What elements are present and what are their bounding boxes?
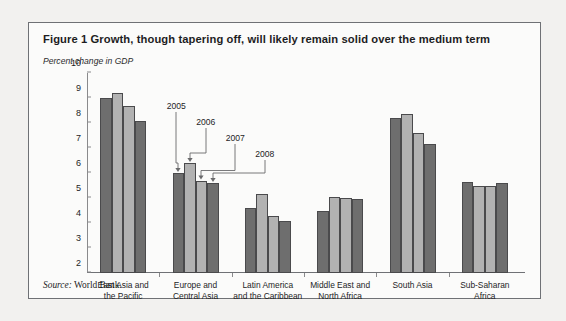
year-callout-label: 2008 xyxy=(255,149,274,159)
source-note: Source: World Bank. xyxy=(43,280,122,290)
x-axis-group-separator xyxy=(159,273,160,277)
bar xyxy=(340,198,352,273)
figure-box: Figure 1 Growth, though tapering off, wi… xyxy=(28,22,541,299)
bar xyxy=(473,186,485,274)
figure-page: Figure 1 Growth, though tapering off, wi… xyxy=(0,0,566,321)
bar xyxy=(279,221,291,274)
axis-unit-label: Percent change in GDP xyxy=(43,56,133,66)
chart-plot-area: 2345678910 East Asia andthe PacificEurop… xyxy=(87,73,521,273)
x-axis-group-separator xyxy=(449,273,450,277)
bar xyxy=(123,106,135,274)
x-axis-category-line: Europe and xyxy=(173,280,218,291)
bar-group: Sub-SaharanAfrica xyxy=(462,73,508,273)
y-axis-tick-mark xyxy=(87,197,91,198)
bar-group: South Asia xyxy=(390,73,436,273)
bar xyxy=(352,199,364,273)
year-callout-label: 2007 xyxy=(226,133,245,143)
source-label: Source: xyxy=(43,280,72,290)
y-axis-tick-mark xyxy=(87,222,91,223)
y-axis-tick-mark xyxy=(87,272,91,273)
source-value: World Bank. xyxy=(74,280,122,290)
bar-group: East Asia andthe Pacific xyxy=(100,73,146,273)
year-callout-arrow-icon xyxy=(171,112,183,172)
bar xyxy=(390,118,402,273)
y-axis-tick-mark xyxy=(87,72,91,73)
year-callout-arrow-icon xyxy=(208,160,270,182)
bar xyxy=(485,186,497,274)
bar xyxy=(424,144,436,273)
page-title: Figure 1 Growth, though tapering off, wi… xyxy=(43,33,490,45)
y-axis-tick-label: 5 xyxy=(76,183,81,193)
y-axis-tick-mark xyxy=(87,147,91,148)
y-axis-tick-label: 10 xyxy=(71,58,81,68)
bar xyxy=(256,194,268,273)
y-axis-tick-label: 9 xyxy=(76,83,81,93)
x-axis-category-label: Middle East andNorth Africa xyxy=(310,280,370,302)
y-axis-tick-mark xyxy=(87,172,91,173)
y-axis-tick-label: 4 xyxy=(76,208,81,218)
y-axis-tick-label: 6 xyxy=(76,158,81,168)
y-axis-tick-label: 8 xyxy=(76,108,81,118)
x-axis-category-line: Sub-Saharan xyxy=(460,280,509,291)
bar xyxy=(207,183,219,273)
y-axis-tick-label: 2 xyxy=(76,258,81,268)
y-axis-tick-label: 7 xyxy=(76,133,81,143)
x-axis-category-line: Central Asia xyxy=(173,291,218,302)
bar xyxy=(462,182,474,273)
x-axis-category-line: North Africa xyxy=(310,291,370,302)
bar xyxy=(401,114,413,273)
bar xyxy=(329,197,341,273)
x-axis-category-line: and the Caribbean xyxy=(233,291,302,302)
x-axis-category-label: Sub-SaharanAfrica xyxy=(460,280,509,302)
bar xyxy=(245,208,257,273)
y-axis-tick-mark xyxy=(87,122,91,123)
y-axis-tick-label: 3 xyxy=(76,233,81,243)
bar xyxy=(317,211,329,274)
bar xyxy=(496,183,508,273)
x-axis-category-line: Africa xyxy=(460,291,509,302)
bar-group: Middle East andNorth Africa xyxy=(317,73,363,273)
bar xyxy=(268,216,280,274)
x-axis-category-line: Middle East and xyxy=(310,280,370,291)
bar xyxy=(100,98,112,273)
x-axis-category-label: South Asia xyxy=(392,280,432,291)
x-axis-group-separator xyxy=(304,273,305,277)
bar xyxy=(135,121,147,274)
x-axis-line xyxy=(87,272,525,273)
bar xyxy=(413,133,425,273)
y-axis-line xyxy=(87,73,88,273)
bar xyxy=(173,173,185,273)
x-axis-category-label: Europe andCentral Asia xyxy=(173,280,218,302)
bar xyxy=(184,163,196,273)
y-axis-tick-mark xyxy=(87,97,91,98)
x-axis-category-line: the Pacific xyxy=(98,291,149,302)
y-axis-tick-mark xyxy=(87,247,91,248)
bar xyxy=(196,181,208,274)
bar xyxy=(112,93,124,273)
x-axis-group-separator xyxy=(232,273,233,277)
x-axis-category-line: Latin America xyxy=(233,280,302,291)
x-axis-category-label: Latin Americaand the Caribbean xyxy=(233,280,302,302)
year-callout-label: 2006 xyxy=(196,117,215,127)
x-axis-group-separator xyxy=(376,273,377,277)
x-axis-category-line: South Asia xyxy=(392,280,432,291)
year-callout-label: 2005 xyxy=(167,101,186,111)
